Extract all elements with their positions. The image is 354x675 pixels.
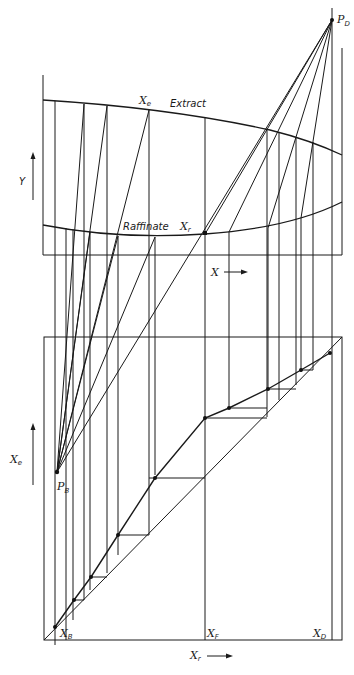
pb-point	[55, 470, 59, 474]
lower-panel: PB XB XF XD Xe Xr	[9, 337, 342, 663]
upper-panel: PD Xe Extract Raffinate Xr Y X	[19, 8, 350, 645]
rays-from-pb	[57, 104, 155, 472]
xr-point	[203, 231, 207, 235]
stage-steps	[74, 370, 313, 600]
pd-label: PD	[336, 13, 350, 28]
pd-point	[330, 18, 334, 22]
stage-points	[53, 351, 332, 629]
operating-curve	[55, 353, 330, 627]
xe-axis-label: Xe	[9, 453, 22, 467]
xb-label: XB	[59, 627, 73, 641]
raffinate-curve	[43, 202, 342, 236]
extract-label: Extract	[170, 98, 207, 109]
pb-label: PB	[56, 480, 69, 495]
xr-axis-arrow	[207, 654, 233, 659]
xr-axis-label: Xr	[189, 649, 202, 663]
diagonal-line	[44, 337, 342, 640]
raffinate-label: Raffinate	[123, 221, 169, 232]
xe-label: Xe	[138, 94, 151, 108]
x-axis-label: X	[210, 266, 220, 279]
ponchon-savarit-diagram: PD Xe Extract Raffinate Xr Y X	[0, 0, 354, 675]
rays-from-pd	[57, 8, 332, 472]
xe-axis-arrow	[31, 423, 36, 485]
xd-label: XD	[312, 627, 327, 641]
y-axis-arrow	[31, 152, 36, 200]
xf-label: XF	[206, 627, 220, 641]
x-axis-arrow	[224, 270, 248, 275]
y-axis-label: Y	[19, 176, 26, 187]
xr-label: Xr	[179, 220, 192, 234]
